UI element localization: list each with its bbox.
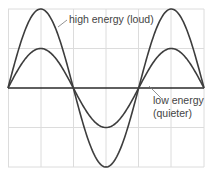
low-energy-label-line2: (quieter) — [153, 107, 192, 119]
high-label-leader — [58, 20, 67, 27]
low-energy-label-line1: low energy — [153, 94, 204, 106]
high-energy-label: high energy (loud) — [69, 13, 154, 25]
waveform-diagram — [0, 0, 209, 172]
